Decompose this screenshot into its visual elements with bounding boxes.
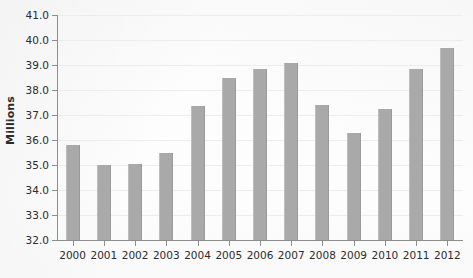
x-axis-tick: [447, 241, 448, 246]
x-axis-tick: [354, 241, 355, 246]
y-axis-tick-label: 37.0: [26, 109, 49, 121]
x-axis-tick-label: 2007: [278, 249, 305, 261]
y-axis-tick: [52, 215, 57, 216]
y-axis-line: [57, 15, 58, 240]
x-axis-tick-label: 2005: [215, 249, 242, 261]
y-axis-tick-label: 41.0: [26, 9, 49, 21]
y-axis-tick: [52, 15, 57, 16]
x-axis-tick: [322, 241, 323, 246]
bar-chart: Millions 41.040.039.038.037.036.035.034.…: [0, 0, 473, 278]
x-axis-tick-label: 2008: [309, 249, 336, 261]
x-axis-tick-label: 2011: [403, 249, 430, 261]
bar: [440, 48, 454, 241]
y-axis-tick-label: 32.0: [26, 234, 49, 246]
plot-area: 41.040.039.038.037.036.035.034.033.032.0…: [57, 15, 463, 240]
bar: [347, 133, 361, 241]
x-axis-tick: [416, 241, 417, 246]
y-axis-tick-label: 33.0: [26, 209, 49, 221]
y-axis-tick: [52, 190, 57, 191]
x-axis-tick-label: 2006: [247, 249, 274, 261]
x-axis-tick: [135, 241, 136, 246]
y-axis-tick-label: 40.0: [26, 34, 49, 46]
gridline: [58, 40, 463, 41]
y-axis-tick: [52, 40, 57, 41]
y-axis-tick-label: 36.0: [26, 134, 49, 146]
x-axis-tick: [291, 241, 292, 246]
bar: [378, 109, 392, 240]
x-axis-tick: [385, 241, 386, 246]
y-axis-title-label: Millions: [4, 96, 17, 145]
y-axis-tick-label: 35.0: [26, 159, 49, 171]
gridline: [58, 65, 463, 66]
y-axis-tick: [52, 165, 57, 166]
y-axis-tick: [52, 115, 57, 116]
x-axis-tick-label: 2009: [340, 249, 367, 261]
x-axis-tick: [73, 241, 74, 246]
x-axis-tick: [166, 241, 167, 246]
gridline: [58, 15, 463, 16]
bar: [66, 145, 80, 240]
x-axis-tick: [198, 241, 199, 246]
x-axis-tick: [260, 241, 261, 246]
bar: [253, 69, 267, 240]
y-axis-tick-label: 34.0: [26, 184, 49, 196]
bar: [315, 105, 329, 240]
x-axis-tick-label: 2003: [153, 249, 180, 261]
x-axis-tick: [104, 241, 105, 246]
y-axis-tick-label: 38.0: [26, 84, 49, 96]
bar: [191, 106, 205, 240]
y-axis-tick: [52, 65, 57, 66]
x-axis-tick-label: 2012: [434, 249, 461, 261]
bar: [159, 153, 173, 241]
bar: [409, 69, 423, 240]
y-axis-tick-label: 39.0: [26, 59, 49, 71]
y-axis-tick: [52, 240, 57, 241]
y-axis-title: Millions: [0, 0, 20, 240]
y-axis-tick: [52, 140, 57, 141]
bar: [284, 63, 298, 241]
x-axis-tick-label: 2000: [59, 249, 86, 261]
x-axis-tick: [229, 241, 230, 246]
x-axis-tick-label: 2002: [122, 249, 149, 261]
x-axis-tick-label: 2010: [372, 249, 399, 261]
bar: [128, 164, 142, 240]
y-axis-tick: [52, 90, 57, 91]
x-axis-tick-label: 2004: [184, 249, 211, 261]
x-axis-tick-label: 2001: [90, 249, 117, 261]
bar: [222, 78, 236, 241]
bar: [97, 165, 111, 240]
